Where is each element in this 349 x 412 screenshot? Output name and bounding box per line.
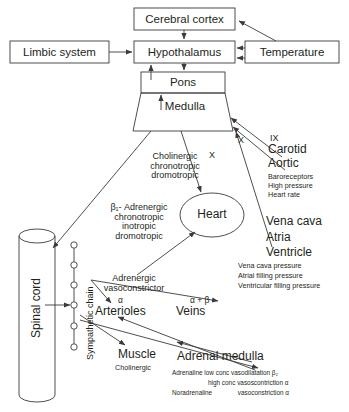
label-atrial-filling-pressure: Atrial filling pressure — [238, 272, 303, 280]
adrenal-line3-receptor: α — [285, 389, 289, 396]
annotation-beta1-adrenergic: β₁- Adrenergic chronotropic inotropic dr… — [98, 203, 180, 242]
label-pons: Pons — [141, 76, 225, 88]
annotation-cholinergic-line-3: dromotropic — [142, 171, 208, 181]
adrenal-line1-effect: low conc vasodilatation — [204, 369, 270, 376]
adrenal-line1-drug: Adrenaline — [172, 369, 203, 376]
label-aortic: Aortic — [268, 157, 299, 170]
annotation-adrenergic-vasoconstrictor: Adrenergic vasoconstrictor — [93, 274, 175, 293]
adrenal-line3-effect: vasoconstriction — [238, 389, 284, 396]
arrow-temperature-to-cortex — [239, 21, 276, 41]
adrenal-line1-receptor: β₂ — [272, 369, 278, 376]
label-high-pressure: High pressure — [268, 182, 313, 190]
label-vena-cava: Vena cava — [266, 215, 322, 228]
label-adrenal-medulla: Adrenal medulla — [177, 350, 264, 363]
label-heart-rate: Heart rate — [268, 191, 300, 199]
label-vena-cava-pressure: Vena cava pressure — [238, 262, 302, 270]
label-atria: Atria — [266, 231, 291, 244]
adrenal-line3-drug: Noradrenaline — [172, 389, 212, 396]
label-muscle-cholinergic: Cholinergic — [115, 364, 151, 372]
annotation-beta1-line-4: dromotropic — [98, 232, 180, 242]
label-muscle: Muscle — [118, 348, 156, 361]
label-carotid: Carotid — [268, 143, 307, 156]
annotation-cholinergic: Cholinergic chronotropic dromotropic — [142, 152, 208, 181]
node-spinal-cord-bottom — [19, 395, 55, 402]
label-nerve-vagus-heart: X — [209, 151, 215, 161]
label-spinal-cord: Spinal cord — [30, 278, 43, 338]
label-hypothalamus: Hypothalamus — [134, 46, 235, 58]
label-ventricular-filling-pressure: Ventricular filling pressure — [238, 282, 320, 290]
node-spinal-cord-top — [19, 229, 55, 243]
label-veins: Veins — [176, 305, 205, 318]
diagram-canvas: Cerebral cortex Limbic system Hypothalam… — [0, 0, 349, 412]
label-cerebral-cortex: Cerebral cortex — [134, 13, 235, 25]
adrenal-detail-line-1: Adrenaline low conc vasodilatation β₂ — [172, 370, 278, 377]
label-heart: Heart — [180, 208, 244, 221]
annotation-vaso-line-2: vasoconstrictor — [93, 284, 175, 294]
label-medulla: Medulla — [140, 100, 230, 112]
adrenal-detail-line-2: high conc vasoscontriction α — [208, 380, 288, 387]
label-baroreceptors: Baroreceptors — [268, 173, 313, 181]
label-sympathetic-chain: Sympathetic chain — [86, 286, 96, 360]
label-arterioles: Arterioles — [95, 305, 146, 318]
adrenal-line2-effect: high conc vasoscontriction — [208, 379, 283, 386]
adrenal-detail-line-3: Noradrenaline vasoconstriction α — [172, 390, 289, 397]
label-ventricle: Ventricle — [266, 246, 312, 259]
label-temperature: Temperature — [245, 46, 339, 58]
adrenal-line2-receptor: α — [285, 379, 289, 386]
label-limbic-system: Limbic system — [10, 46, 109, 58]
label-nerve-vagus-medulla: X — [238, 136, 244, 146]
